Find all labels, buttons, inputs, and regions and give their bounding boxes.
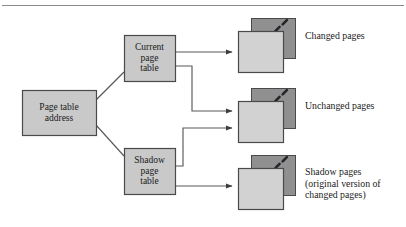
unchanged-pages-caption: Unchanged pages (305, 100, 374, 112)
changed-pages-icon[interactable] (239, 19, 296, 73)
changed-pages-icon-front-sheet (239, 32, 284, 73)
unchanged-pages-icon-front-sheet (239, 102, 284, 143)
figure-container: Page table addressCurrent page tableShad… (0, 0, 406, 227)
page-table-address-box[interactable] (23, 91, 97, 136)
shadow-pages-icon[interactable] (239, 156, 296, 210)
arrow-current-to-unchanged (175, 66, 232, 111)
unchanged-pages-icon[interactable] (239, 89, 296, 143)
shadow-pages-icon-front-sheet (239, 169, 284, 210)
connector-address-to-shadow (96, 125, 124, 156)
shadow-pages-caption: Shadow pages (original version of change… (305, 166, 381, 201)
connector-address-to-current (96, 72, 124, 100)
shadow-page-table-box[interactable] (125, 149, 176, 195)
current-page-table-box[interactable] (125, 36, 176, 82)
changed-pages-caption: Changed pages (305, 30, 365, 42)
box-layer (23, 36, 176, 195)
page-group-layer (239, 19, 296, 210)
arrow-shadow-to-unchanged (175, 128, 232, 166)
